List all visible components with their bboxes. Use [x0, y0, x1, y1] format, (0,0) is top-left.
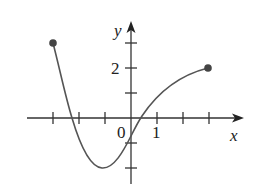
y-axis-label: y	[112, 21, 122, 40]
right-endpoint	[204, 64, 212, 72]
origin-label: 0	[117, 123, 126, 142]
function-graph: y x 0 1 2	[0, 0, 259, 184]
x-tick-label-1: 1	[152, 123, 161, 142]
left-endpoint	[49, 39, 57, 47]
x-axis-label: x	[229, 126, 238, 145]
y-tick-label-2: 2	[111, 59, 120, 78]
